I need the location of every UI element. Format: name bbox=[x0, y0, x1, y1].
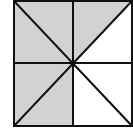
shaded-square-diagram bbox=[0, 0, 133, 128]
grid-lines bbox=[14, 1, 132, 126]
